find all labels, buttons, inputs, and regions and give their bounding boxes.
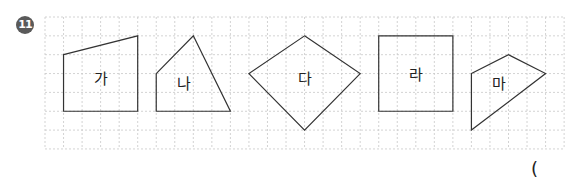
shape-grid-figure: 가나다라마	[0, 0, 577, 185]
shape-label-da: 다	[298, 70, 312, 88]
shape-label-ra: 라	[409, 66, 423, 84]
shape-label-ma: 마	[492, 75, 506, 93]
shape-label-na: 나	[177, 75, 191, 93]
answer-bracket: (	[531, 158, 538, 179]
shape-label-ga: 가	[94, 70, 108, 88]
